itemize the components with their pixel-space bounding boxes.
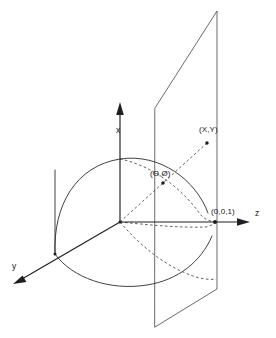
point-theta-phi-marker xyxy=(161,181,164,184)
point-pole-marker xyxy=(213,220,217,224)
axis-x-label: x xyxy=(116,126,120,135)
axis-y-label: y xyxy=(12,262,16,271)
sphere-meridian-lower-dashed xyxy=(120,222,215,227)
axis-z-arrowhead xyxy=(237,218,250,226)
sphere-outline-lower xyxy=(55,236,212,286)
figure-container: x y z (X,Y) (Θ,Ø) (0,0,1) xyxy=(0,0,276,338)
y-axis-sphere-intersection-marker xyxy=(54,253,57,256)
diagram-canvas xyxy=(0,0,276,338)
axis-y-arrowhead xyxy=(13,276,26,284)
sphere-outline-upper xyxy=(55,158,208,254)
point-xy-label: (X,Y) xyxy=(199,126,218,134)
point-theta-phi-label: (Θ,Ø) xyxy=(150,170,171,178)
axis-x-arrowhead xyxy=(116,102,124,115)
point-xy-marker xyxy=(205,141,208,144)
point-pole-label: (0,0,1) xyxy=(211,208,235,216)
origin-marker xyxy=(119,221,122,224)
axis-y-line xyxy=(22,222,120,279)
axis-z-label: z xyxy=(255,209,259,218)
sphere-equator-dashed xyxy=(120,222,216,279)
